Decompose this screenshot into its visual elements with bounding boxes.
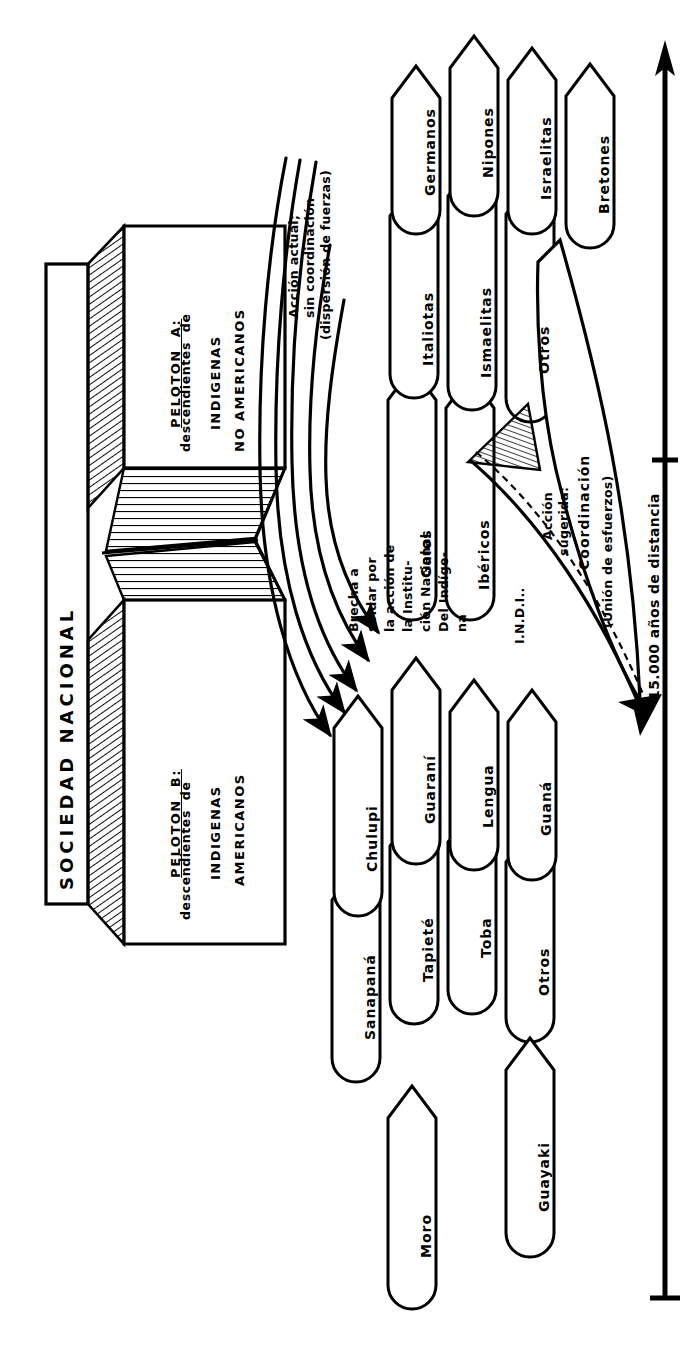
brecha-line1: Brecha a <box>346 568 362 632</box>
label-ismaelitas: Ismaelitas <box>478 287 496 378</box>
accion-sugerida-line4: (Unión de esfuerzos) <box>600 475 616 628</box>
label-sanapana: Sanapaná <box>362 954 380 1040</box>
label-israelitas: Israelitas <box>538 117 556 200</box>
label-chulupi: Chulupi <box>364 805 382 872</box>
label-moro: Moro <box>418 1214 436 1258</box>
label-nipones: Nipones <box>480 107 498 178</box>
accion-sugerida-line3: Coordinación <box>576 455 594 570</box>
indi-label: I.N.D.I.. <box>512 587 528 644</box>
label-guayaki: Guayaki <box>536 1142 554 1212</box>
label-bretones: Bretones <box>596 135 614 214</box>
accion-sugerida-line2: sugerida: <box>556 487 572 556</box>
label-tapiete: Tapieté <box>420 917 438 982</box>
label-germanos: Germanos <box>422 108 440 196</box>
label-italiotas: Italiotas <box>420 292 438 366</box>
accion-actual-line2: sin coordinación <box>302 198 318 318</box>
brecha-line4: la Institu- <box>400 560 416 632</box>
arrow-shape-moro <box>388 1086 436 1309</box>
label-guarani: Guaraní <box>422 755 440 824</box>
brecha-line3: la acción de <box>382 545 398 632</box>
peloton-b-line4: AMERICANOS <box>232 773 248 886</box>
label-otros-american: Otros <box>536 948 554 996</box>
diagram-canvas: SOCIEDAD NACIONAL PELOTON A: descendient… <box>0 0 700 1351</box>
label-guana: Guaná <box>538 781 556 836</box>
page-title: SOCIEDAD NACIONAL <box>56 607 79 890</box>
brecha-line6: Del Indíge- <box>436 552 452 632</box>
accion-actual-line1: Acción actual; <box>286 215 302 318</box>
peloton-b-line2: descendientes de <box>178 782 194 920</box>
label-ibericos: Ibéricos <box>476 519 494 590</box>
peloton-a-line3: INDIGENAS <box>208 335 224 430</box>
label-galos: Galos <box>418 529 436 578</box>
label-lengua: Lengua <box>480 764 498 828</box>
accion-sugerida-line1: Acción <box>540 492 556 540</box>
peloton-a-line2: descendientes de <box>178 314 194 452</box>
peloton-b-box <box>124 600 285 944</box>
distance-axis-label: 15.000 años de distancia <box>646 493 664 700</box>
brecha-line7: na <box>454 614 470 632</box>
diagram-vector-layer <box>0 0 700 1351</box>
peloton-b-line3: INDIGENAS <box>208 785 224 880</box>
brecha-gap-wedge <box>102 468 285 600</box>
brecha-line2: soldar por <box>364 557 380 632</box>
peloton-a-line4: NO AMERICANOS <box>232 308 248 452</box>
label-otros-non-american: Otros <box>536 326 554 374</box>
label-toba: Toba <box>478 917 496 958</box>
accion-actual-line3: (dispersión de fuerzas) <box>318 170 334 340</box>
